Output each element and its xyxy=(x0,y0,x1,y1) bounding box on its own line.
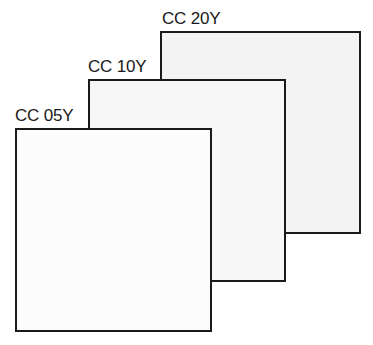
label-cc-10y: CC 10Y xyxy=(88,58,146,75)
label-cc-05y: CC 05Y xyxy=(15,107,73,124)
card-cc-05y xyxy=(15,128,212,332)
label-cc-20y: CC 20Y xyxy=(162,10,220,27)
